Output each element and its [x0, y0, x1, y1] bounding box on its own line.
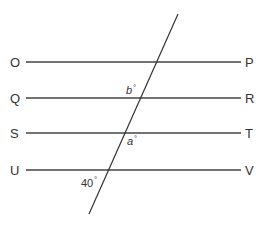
point-label-v: V [245, 163, 254, 178]
angle-b-label: b ° [126, 83, 136, 96]
point-label-u: U [10, 163, 19, 178]
point-label-o: O [10, 55, 20, 70]
angle-b-variable: b [126, 84, 132, 96]
angle-a-label: a ° [127, 134, 137, 147]
angle-40-label: 40 ° [81, 175, 97, 189]
line-op: O P [10, 55, 254, 70]
point-label-r: R [245, 91, 254, 106]
transversal-line [89, 14, 178, 214]
angle-a-variable: a [127, 135, 133, 147]
point-label-t: T [245, 126, 253, 141]
line-uv: U V [10, 163, 254, 178]
parallel-lines-diagram: O P Q R S T U V b ° a ° 40 ° [0, 0, 270, 231]
point-label-q: Q [10, 91, 20, 106]
line-qr: Q R [10, 91, 254, 106]
angle-40-degree: ° [94, 175, 97, 184]
point-label-p: P [245, 55, 254, 70]
point-label-s: S [10, 126, 19, 141]
angle-a-degree: ° [134, 134, 137, 143]
angle-b-degree: ° [133, 83, 136, 92]
angle-40-value: 40 [81, 177, 93, 189]
